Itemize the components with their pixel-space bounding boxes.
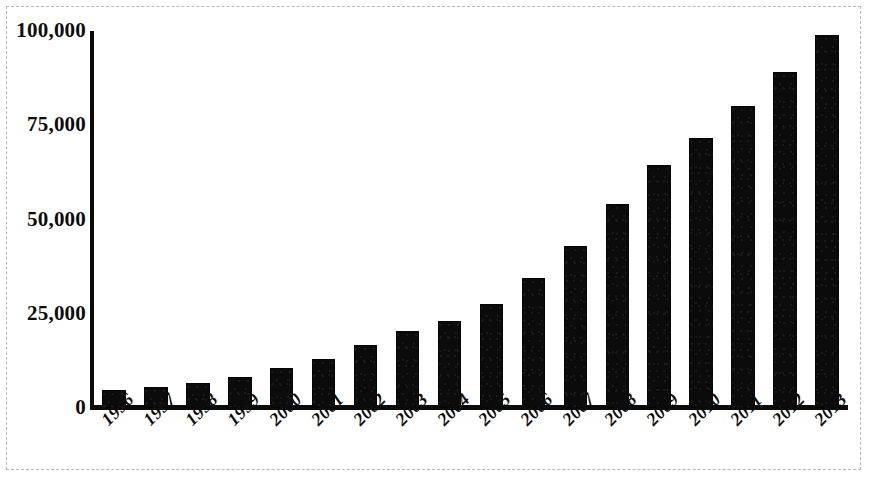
bar-slot xyxy=(638,31,680,408)
bar-slot xyxy=(554,31,596,408)
y-tick-label: 0 xyxy=(2,397,86,418)
bar xyxy=(689,138,712,408)
scan-noise-overlay xyxy=(731,106,754,408)
bar-slot xyxy=(596,31,638,408)
bar-slot xyxy=(806,31,848,408)
bar-slot xyxy=(680,31,722,408)
scan-noise-overlay xyxy=(606,204,629,408)
bar-slot xyxy=(512,31,554,408)
bar-slot xyxy=(429,31,471,408)
y-tick-label: 75,000 xyxy=(2,114,86,135)
y-axis-tick-labels: 025,00050,00075,000100,000 xyxy=(0,0,86,478)
y-tick-label: 50,000 xyxy=(2,209,86,230)
bar xyxy=(773,72,796,408)
bar-slot xyxy=(261,31,303,408)
bar-slot xyxy=(722,31,764,408)
bar-slot xyxy=(219,31,261,408)
bar-slot xyxy=(93,31,135,408)
bar-series-total xyxy=(93,31,848,408)
x-axis-tick-labels: 1996199719981999200020012002200320042005… xyxy=(93,410,848,472)
y-tick-label: 25,000 xyxy=(2,303,86,324)
bar-slot xyxy=(135,31,177,408)
scan-noise-overlay xyxy=(689,138,712,408)
scan-noise-overlay xyxy=(815,35,838,408)
bar-slot xyxy=(177,31,219,408)
bar xyxy=(564,246,587,408)
bar-chart-figure: 025,00050,00075,000100,000 1996199719981… xyxy=(0,0,869,478)
bar-slot xyxy=(303,31,345,408)
bar-slot xyxy=(345,31,387,408)
y-tick-label: 100,000 xyxy=(2,20,86,41)
scan-noise-overlay xyxy=(647,165,670,408)
bar-slot xyxy=(764,31,806,408)
bar xyxy=(815,35,838,408)
bar-slot xyxy=(471,31,513,408)
scan-noise-overlay xyxy=(773,72,796,408)
bar xyxy=(647,165,670,408)
chart-screenshot: 025,00050,00075,000100,000 1996199719981… xyxy=(0,0,869,478)
bar xyxy=(731,106,754,408)
bar xyxy=(606,204,629,408)
scan-noise-overlay xyxy=(564,246,587,408)
bar-slot xyxy=(387,31,429,408)
